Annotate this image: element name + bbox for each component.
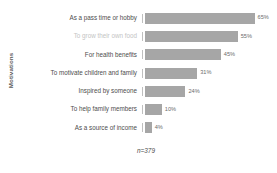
bar-value-label: 10%: [162, 107, 176, 113]
bar: [145, 122, 152, 133]
bar-chart: Motivations As a pass time or hobby65%To…: [0, 0, 277, 173]
bar-value-label: 45%: [221, 52, 235, 58]
category-label: To help family members: [20, 106, 142, 112]
bar: [145, 104, 162, 115]
category-label: As a source of income: [20, 125, 142, 131]
bar: [145, 31, 238, 42]
bar-track: 4%: [143, 119, 277, 137]
category-label: Inspired by someone: [20, 88, 142, 94]
bar-track: 65%: [143, 9, 277, 27]
bar-track: 10%: [143, 100, 277, 118]
bar-value-label: 31%: [197, 70, 211, 76]
category-label: For health benefits: [20, 52, 142, 58]
y-axis-title: Motivations: [0, 0, 22, 140]
bar-value-label: 55%: [238, 34, 252, 40]
plot-area: As a pass time or hobby65%To grow their …: [20, 9, 277, 140]
bar-track: 55%: [143, 27, 277, 45]
bar-track: 45%: [143, 46, 277, 64]
bar-value-label: 65%: [255, 15, 269, 21]
bar-row: To help family members10%: [20, 100, 277, 118]
bar-row: As a pass time or hobby65%: [20, 9, 277, 27]
sample-size-annotation: n=379: [137, 147, 155, 154]
category-label: To motivate children and family: [20, 70, 142, 76]
category-label: As a pass time or hobby: [20, 15, 142, 21]
category-label: To grow their own food: [20, 33, 142, 39]
bar-row: For health benefits45%: [20, 46, 277, 64]
bar: [145, 13, 255, 24]
bar-row: Inspired by someone24%: [20, 82, 277, 100]
bar: [145, 49, 221, 60]
bar-row: As a source of income4%: [20, 119, 277, 137]
bar-row: To grow their own food55%: [20, 27, 277, 45]
bar: [145, 68, 197, 79]
bar-row: To motivate children and family31%: [20, 64, 277, 82]
bar-track: 31%: [143, 64, 277, 82]
y-axis-title-label: Motivations: [8, 52, 15, 87]
bar-value-label: 24%: [185, 89, 199, 95]
bar-value-label: 4%: [152, 125, 163, 131]
bar-track: 24%: [143, 82, 277, 100]
bar: [145, 86, 185, 97]
